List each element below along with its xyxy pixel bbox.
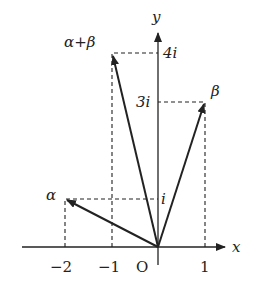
x-tick-neg1: −1 [98, 258, 120, 276]
vector-beta [158, 104, 204, 247]
y-tick-i: i [161, 190, 166, 208]
label-alpha: α [46, 186, 56, 204]
label-beta: β [210, 82, 220, 100]
x-axis-label: x [232, 238, 241, 256]
origin-label: O [136, 258, 148, 276]
y-tick-3i: 3i [136, 93, 151, 111]
complex-plane-diagram: y x O −2 −1 1 i 3i 4i α β α+β [0, 0, 255, 281]
label-alpha-plus-beta: α+β [64, 33, 96, 51]
x-tick-neg2: −2 [50, 258, 72, 276]
y-tick-4i: 4i [162, 44, 178, 62]
y-axis-label: y [151, 8, 161, 26]
x-tick-1: 1 [200, 258, 210, 276]
vector-alpha-plus-beta [113, 56, 158, 247]
